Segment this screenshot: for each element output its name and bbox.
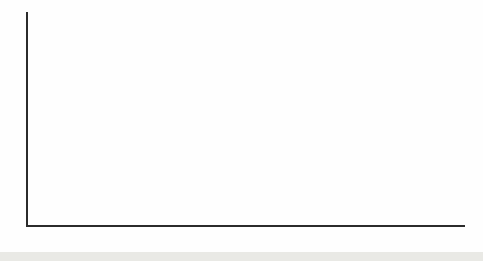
category-axis-labels	[0, 12, 26, 227]
x-axis	[26, 227, 465, 247]
page-bottom-band	[0, 252, 483, 261]
figure-page	[0, 0, 483, 261]
bar-chart-plot-area	[26, 12, 465, 227]
